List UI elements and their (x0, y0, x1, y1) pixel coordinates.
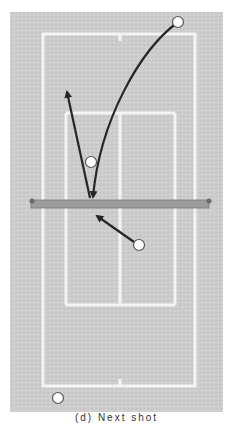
net-band (31, 200, 209, 208)
left-net-post (30, 199, 35, 204)
ball-mid-left (86, 157, 97, 168)
ball-bottom-left (53, 393, 64, 404)
figure-caption: (d) Next shot (0, 412, 233, 424)
net (30, 199, 212, 209)
ball-below-net (134, 240, 145, 251)
right-net-post (207, 199, 212, 204)
ball-top-right (173, 17, 184, 28)
